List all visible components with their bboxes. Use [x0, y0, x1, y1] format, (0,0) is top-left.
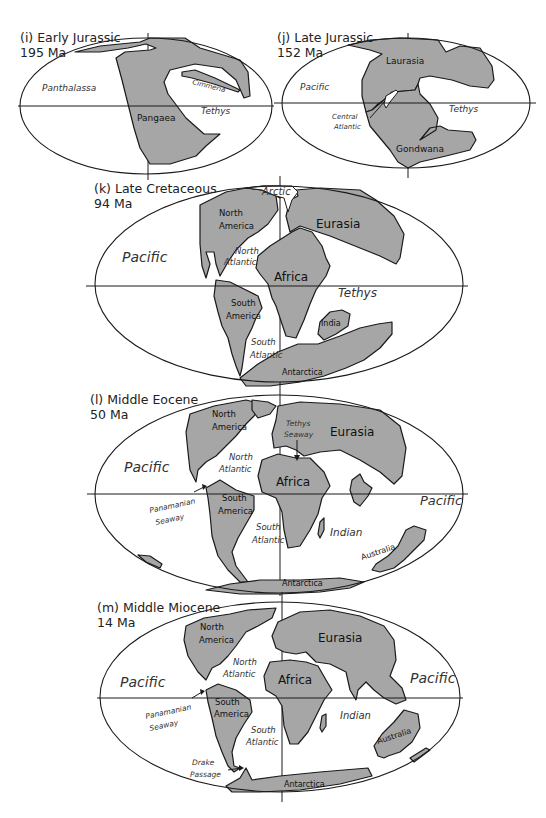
- land-label-america: America: [212, 422, 247, 432]
- ocean-label-pacific-west: Pacific: [120, 674, 166, 690]
- panel-early-jurassic: (i) Early Jurassic 195 Ma Panthalassa Te…: [18, 30, 274, 180]
- landmass-india: [350, 474, 372, 506]
- panel-middle-eocene: (l) Middle Eocene 50 Ma Pacific North At…: [87, 382, 468, 596]
- land-label-africa: Africa: [276, 475, 310, 489]
- arrowhead-icon: [200, 689, 205, 695]
- arrowhead-icon: [239, 765, 244, 771]
- land-label-africa: Africa: [274, 270, 308, 284]
- annotation-atlantic: Atlantic: [333, 123, 361, 131]
- annotation-panamanian: Panamanian: [145, 702, 193, 721]
- ocean-label-atlantic: Atlantic: [222, 669, 256, 679]
- land-label-eurasia: Eurasia: [316, 217, 360, 231]
- land-label-pangaea: Pangaea: [137, 113, 176, 123]
- land-label-america-2: America: [218, 506, 253, 516]
- land-label-laurasia: Laurasia: [386, 56, 424, 66]
- landmass-madagascar: [320, 714, 326, 732]
- annotation-tethys: Tethys: [286, 419, 310, 428]
- land-label-india: India: [321, 319, 341, 328]
- ocean-label-atlantic-2: Atlantic: [251, 535, 285, 545]
- annotation-panamanian: Panamanian: [149, 496, 197, 515]
- panel-middle-miocene: (m) Middle Miocene 14 Ma Pacific North A…: [97, 592, 463, 802]
- land-label-south: South: [231, 298, 256, 308]
- land-label-america: America: [219, 221, 254, 231]
- annotation-seaway: Seaway: [149, 718, 180, 733]
- ocean-label-indian: Indian: [340, 710, 371, 721]
- land-label-north: North: [212, 409, 236, 419]
- ocean-label-arctic: Arctic: [261, 186, 291, 197]
- land-label-north: North: [219, 208, 243, 218]
- land-label-antarctica: Antarctica: [282, 579, 323, 588]
- land-label-gondwana: Gondwana: [396, 144, 444, 154]
- land-label-america-2: America: [214, 709, 249, 719]
- panel-age: 94 Ma: [94, 196, 132, 211]
- paleogeography-figure: (i) Early Jurassic 195 Ma Panthalassa Te…: [0, 0, 546, 818]
- panel-late-jurassic: (j) Late Jurassic 152 Ma Pacific Tethys …: [274, 30, 536, 178]
- panel-age: 152 Ma: [277, 45, 323, 60]
- landmass-small-island: [138, 555, 162, 568]
- landmass-new-zealand: [410, 748, 430, 762]
- ocean-label-tethys: Tethys: [449, 104, 478, 114]
- ocean-label-tethys: Tethys: [338, 286, 377, 300]
- landmass-pangaea: [75, 38, 250, 164]
- land-label-america: America: [199, 635, 234, 645]
- land-label-south: South: [215, 697, 240, 707]
- annotation-seaway-2: Seaway: [155, 512, 186, 527]
- landmass-south-america: [214, 280, 262, 376]
- ocean-label-pacific-west: Pacific: [124, 459, 170, 475]
- pointer-panamanian-seaway: [192, 692, 202, 698]
- annotation-passage: Passage: [190, 770, 221, 779]
- pointer-panamanian-seaway: [194, 487, 204, 492]
- panel-late-cretaceous: (k) Late Cretaceous 94 Ma Arctic Pacific…: [86, 176, 468, 386]
- ocean-label-panthalassa: Panthalassa: [42, 83, 96, 93]
- land-label-africa: Africa: [278, 673, 312, 687]
- annotation-seaway: Seaway: [284, 430, 314, 439]
- ocean-label-atlantic: Atlantic: [218, 464, 252, 474]
- ocean-label-pacific-east: Pacific: [420, 493, 462, 508]
- land-label-eurasia: Eurasia: [330, 425, 374, 439]
- ocean-label-indian: Indian: [330, 526, 362, 538]
- ocean-label-pacific: Pacific: [300, 82, 329, 92]
- annotation-central: Central: [332, 113, 358, 121]
- ocean-label-atlantic-1: Atlantic: [223, 257, 257, 267]
- ocean-label-pacific: Pacific: [122, 249, 168, 265]
- land-label-antarctica: Antarctica: [282, 368, 323, 377]
- panel-age: 14 Ma: [97, 615, 135, 630]
- ocean-label-south-2: South: [251, 337, 276, 347]
- ocean-label-north: North: [229, 452, 253, 462]
- landmass-greenland: [252, 400, 276, 418]
- ocean-label-atlantic-2: Atlantic: [245, 737, 279, 747]
- ocean-label-north-1: North: [235, 246, 259, 256]
- land-label-antarctica: Antarctica: [284, 780, 325, 789]
- panel-age: 195 Ma: [20, 45, 66, 60]
- ocean-label-tethys: Tethys: [201, 106, 230, 116]
- ocean-label-atlantic-2: Atlantic: [249, 350, 283, 360]
- panel-age: 50 Ma: [90, 407, 128, 422]
- ocean-label-pacific-east: Pacific: [410, 670, 456, 686]
- land-label-south: South: [222, 493, 247, 503]
- panel-title: (j) Late Jurassic: [277, 30, 373, 45]
- panel-title: (m) Middle Miocene: [97, 600, 221, 615]
- ocean-label-south: South: [256, 522, 281, 532]
- land-label-north: North: [200, 622, 224, 632]
- panel-title: (k) Late Cretaceous: [94, 181, 217, 196]
- ocean-label-north: North: [233, 657, 257, 667]
- panel-title: (l) Middle Eocene: [90, 392, 198, 407]
- landmass-madagascar: [318, 518, 324, 538]
- annotation-drake: Drake: [192, 758, 215, 767]
- land-label-eurasia: Eurasia: [318, 631, 362, 645]
- ocean-label-south: South: [251, 725, 276, 735]
- land-label-america-2: America: [226, 311, 261, 321]
- panel-title: (i) Early Jurassic: [20, 30, 121, 45]
